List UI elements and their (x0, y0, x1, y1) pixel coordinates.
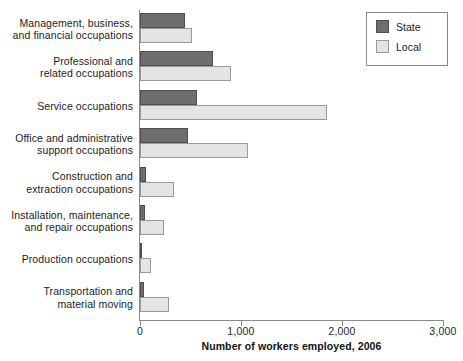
bar-local[interactable] (140, 297, 169, 312)
category-label: Office and administrativesupport occupat… (0, 132, 133, 157)
bar-state[interactable] (140, 205, 145, 220)
bar-local[interactable] (140, 105, 327, 120)
legend-item-local[interactable]: Local (376, 40, 447, 53)
category-label: Professional andrelated occupations (0, 55, 133, 80)
bar-state[interactable] (140, 282, 144, 297)
bar-state[interactable] (140, 90, 197, 105)
x-tick-label-1000: 1,000 (227, 325, 254, 337)
category-label: Service occupations (0, 100, 133, 113)
bar-local[interactable] (140, 182, 174, 197)
category-label: Management, business,and financial occup… (0, 17, 133, 42)
x-tick-label-2000: 2,000 (328, 325, 355, 337)
bar-state[interactable] (140, 243, 142, 258)
legend-item-state[interactable]: State (376, 20, 447, 33)
bar-local[interactable] (140, 66, 231, 81)
category-label: Installation, maintenance,and repair occ… (0, 209, 133, 234)
legend-swatch-local-icon (376, 40, 389, 53)
bar-state[interactable] (140, 13, 185, 28)
bar-local[interactable] (140, 220, 164, 235)
bar-chart: 01,0002,0003,000 Management, business,an… (0, 0, 463, 361)
bar-local[interactable] (140, 143, 248, 158)
x-axis-line (139, 320, 444, 321)
bar-local[interactable] (140, 258, 151, 273)
x-tick-label-3000: 3,000 (429, 325, 456, 337)
legend-label-local: Local (396, 41, 421, 53)
x-axis-title: Number of workers employed, 2006 (139, 340, 444, 352)
category-label: Production occupations (0, 253, 133, 266)
bar-state[interactable] (140, 51, 213, 66)
bar-state[interactable] (140, 128, 188, 143)
bar-local[interactable] (140, 28, 192, 43)
x-tick-label-0: 0 (137, 325, 143, 337)
legend-label-state: State (396, 21, 421, 33)
category-label: Construction andextraction occupations (0, 170, 133, 195)
legend-swatch-state-icon (376, 20, 389, 33)
category-label: Transportation andmaterial moving (0, 285, 133, 310)
bar-state[interactable] (140, 167, 146, 182)
chart-legend: State Local (366, 12, 448, 66)
